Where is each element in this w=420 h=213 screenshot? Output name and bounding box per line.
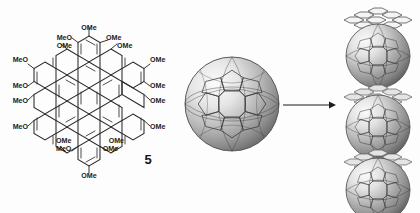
methoxy-label: OMe [150,82,165,90]
c60-sphere-stack [346,95,410,159]
c60-fullerene [185,57,279,151]
methoxy-label: MeO [13,123,29,131]
methoxy-label: OMe [56,137,71,145]
methoxy-label: OMe [106,34,121,42]
methoxy-label: OMe [103,145,118,153]
methoxy-label: MeO [13,56,29,64]
reaction-scheme-figure: OMe MeO OMe OMe OMe MeO MeO MeO MeO OMe … [0,0,420,213]
methoxy-label: OMe [150,97,165,105]
compound-number-label: 5 [144,152,151,167]
c60-sphere-stack [346,24,410,88]
methoxy-label: OMe [150,123,165,131]
methoxy-label: OMe [81,24,96,32]
methoxy-label: OMe [81,172,96,180]
methoxy-label: OMe [117,42,132,50]
methoxy-label: MeO [56,145,72,153]
methoxy-label: MeO [13,82,29,90]
methoxy-label: OMe [150,56,165,64]
cocrystal-stack-assembly [344,8,412,213]
methoxy-label: MeO [57,34,73,42]
methoxy-label: MeO [13,97,29,105]
methoxy-label: OMe [109,137,124,145]
methoxy-label: OMe [57,42,72,50]
